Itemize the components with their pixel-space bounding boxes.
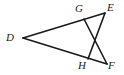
vertex-label-h: H (78, 60, 86, 71)
segment-h-e (88, 13, 105, 59)
segment-d-e (23, 13, 105, 38)
vertex-label-g: G (75, 3, 83, 14)
figure-canvas (0, 0, 124, 75)
geometry-figure: D G E H F (0, 0, 124, 75)
vertex-label-e: E (107, 2, 114, 13)
vertex-label-f: F (108, 60, 115, 71)
figure-strokes (23, 13, 107, 64)
vertex-label-d: D (6, 32, 14, 43)
